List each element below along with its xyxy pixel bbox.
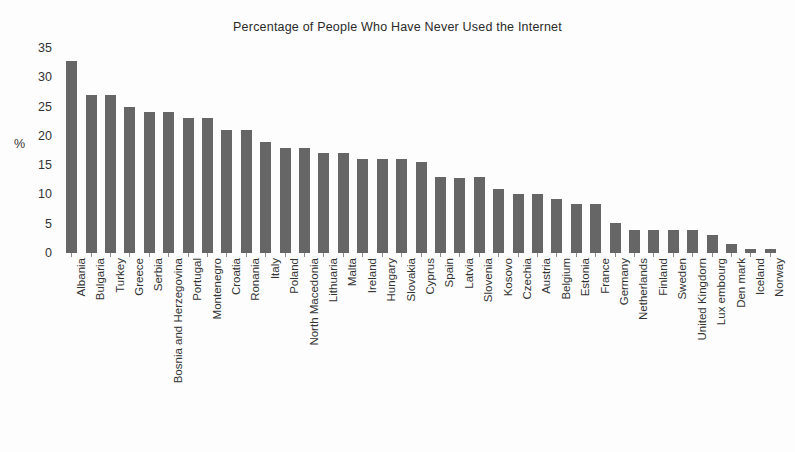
bar[interactable] xyxy=(648,230,659,253)
bar[interactable] xyxy=(610,223,621,253)
bar-slot xyxy=(178,44,197,253)
bar-slot xyxy=(353,44,372,253)
bar-slot xyxy=(489,44,508,253)
x-label-slot: Czechia xyxy=(508,258,527,438)
bar[interactable] xyxy=(221,130,232,253)
x-label-slot: Malta xyxy=(334,258,353,438)
x-axis-labels: AlbaniaBulgariaTurkeyGreeceSerbiaBosnia … xyxy=(62,258,780,438)
bar[interactable] xyxy=(299,148,310,253)
plot-area xyxy=(62,44,780,253)
x-tick-mark xyxy=(188,253,189,257)
x-tick-mark xyxy=(149,253,150,257)
x-label-slot: Albania xyxy=(62,258,81,438)
x-tick-mark xyxy=(91,253,92,257)
x-label-slot: Hungary xyxy=(373,258,392,438)
x-tick-mark xyxy=(71,253,72,257)
bar-slot xyxy=(528,44,547,253)
bar[interactable] xyxy=(105,95,116,253)
x-axis-tick-label-text: Norway xyxy=(774,258,786,297)
x-tick-mark xyxy=(595,253,596,257)
bar[interactable] xyxy=(163,112,174,253)
bar[interactable] xyxy=(571,204,582,253)
bar[interactable] xyxy=(474,177,485,253)
bar-slot xyxy=(702,44,721,253)
bar-slot xyxy=(81,44,100,253)
x-tick-mark xyxy=(401,253,402,257)
bar[interactable] xyxy=(357,159,368,253)
x-label-slot: Iceland xyxy=(741,258,760,438)
bar-series xyxy=(62,44,780,253)
bar-slot xyxy=(392,44,411,253)
x-label-slot: Poland xyxy=(275,258,294,438)
y-tick-label: 20 xyxy=(38,130,52,143)
x-tick-mark xyxy=(731,253,732,257)
y-tick-label: 25 xyxy=(38,100,52,113)
bar[interactable] xyxy=(318,153,329,253)
bar[interactable] xyxy=(377,159,388,253)
bar[interactable] xyxy=(590,204,601,253)
bar[interactable] xyxy=(687,230,698,253)
bar-slot xyxy=(411,44,430,253)
x-tick-mark xyxy=(615,253,616,257)
x-label-slot: United Kingdorn xyxy=(683,258,702,438)
x-tick-mark xyxy=(537,253,538,257)
bar[interactable] xyxy=(124,107,135,253)
x-tick-mark xyxy=(265,253,266,257)
bar[interactable] xyxy=(532,194,543,253)
bar-slot xyxy=(217,44,236,253)
bar[interactable] xyxy=(260,142,271,253)
x-tick-mark xyxy=(634,253,635,257)
bar-slot xyxy=(664,44,683,253)
bar[interactable] xyxy=(668,230,679,253)
bar-slot xyxy=(547,44,566,253)
x-label-slot: Croatia xyxy=(217,258,236,438)
x-label-slot: Sweden xyxy=(664,258,683,438)
y-tick-label: 10 xyxy=(38,188,52,201)
bar-slot xyxy=(295,44,314,253)
x-label-slot: Lithuaria xyxy=(314,258,333,438)
bar[interactable] xyxy=(338,153,349,253)
x-tick-mark xyxy=(712,253,713,257)
bar[interactable] xyxy=(493,189,504,253)
bar[interactable] xyxy=(629,230,640,253)
bar[interactable] xyxy=(183,118,194,253)
bar[interactable] xyxy=(454,178,465,253)
bar-slot xyxy=(237,44,256,253)
y-axis-title: % xyxy=(14,137,25,151)
x-label-slot: Bulgaria xyxy=(81,258,100,438)
bar-slot xyxy=(159,44,178,253)
bar-slot xyxy=(761,44,780,253)
x-tick-mark xyxy=(556,253,557,257)
bar[interactable] xyxy=(726,244,737,253)
bar[interactable] xyxy=(280,148,291,253)
bar-slot xyxy=(605,44,624,253)
x-tick-mark xyxy=(226,253,227,257)
x-label-slot: North Macedonia xyxy=(295,258,314,438)
y-tick-label: 15 xyxy=(38,159,52,172)
bar[interactable] xyxy=(86,95,97,253)
x-label-slot: Den mark xyxy=(722,258,741,438)
bar[interactable] xyxy=(435,177,446,253)
bar[interactable] xyxy=(396,159,407,253)
bar[interactable] xyxy=(241,130,252,253)
x-tick-mark xyxy=(246,253,247,257)
x-tick-mark xyxy=(304,253,305,257)
bar[interactable] xyxy=(202,118,213,253)
x-label-slot: Greece xyxy=(120,258,139,438)
bar[interactable] xyxy=(513,194,524,253)
x-label-slot: Slovakia xyxy=(392,258,411,438)
bar[interactable] xyxy=(551,199,562,253)
bar-slot xyxy=(275,44,294,253)
x-label-slot: Latvia xyxy=(450,258,469,438)
x-tick-mark xyxy=(518,253,519,257)
bar[interactable] xyxy=(416,162,427,253)
bar[interactable] xyxy=(707,235,718,253)
bar-slot xyxy=(140,44,159,253)
bar[interactable] xyxy=(144,112,155,253)
bar-chart: Percentage of People Who Have Never Used… xyxy=(0,0,795,452)
x-label-slot: Lux embourg xyxy=(702,258,721,438)
x-tick-mark xyxy=(207,253,208,257)
bar-slot xyxy=(625,44,644,253)
bar-slot xyxy=(722,44,741,253)
bar[interactable] xyxy=(66,61,77,253)
